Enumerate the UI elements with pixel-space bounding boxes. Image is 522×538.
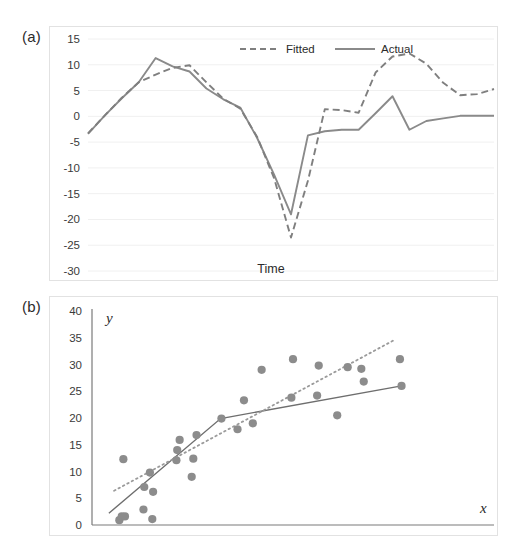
x-axis-title: x: [479, 500, 487, 516]
y-axis-tick-label: 0: [76, 519, 82, 531]
scatter-point: [287, 394, 295, 402]
figure-container: (a) 151050-5-10-15-20-25-30TimeFittedAct…: [0, 0, 522, 538]
scatter-point: [315, 361, 323, 369]
y-axis-tick-label: 25: [69, 385, 82, 397]
y-axis-tick-label: 30: [69, 359, 82, 371]
scatter-point: [249, 419, 257, 427]
y-axis-tick-label: 15: [67, 33, 80, 45]
scatter-point: [313, 391, 321, 399]
y-axis-tick-label: 0: [74, 110, 80, 122]
legend-label-fitted: Fitted: [286, 43, 315, 55]
scatter-point: [148, 515, 156, 523]
y-axis-tick-label: 20: [69, 412, 82, 424]
scatter-point: [396, 355, 404, 363]
series-line-actual: [88, 58, 494, 214]
y-axis-tick-label: -5: [70, 136, 80, 148]
scatter-point: [140, 483, 148, 491]
scatter-point: [149, 488, 157, 496]
scatter-point: [139, 505, 147, 513]
scatter-point: [360, 378, 368, 386]
scatter-chart-panel-b: 4035302520151050yx: [49, 296, 498, 536]
scatter-point: [258, 366, 266, 374]
fit-line-linear: [114, 339, 395, 490]
y-axis-tick-label: -20: [63, 213, 80, 225]
y-axis-tick-label: 15: [69, 439, 82, 451]
scatter-point: [397, 382, 405, 390]
scatter-point: [119, 455, 127, 463]
scatter-point: [188, 473, 196, 481]
x-axis-title: Time: [257, 262, 284, 276]
line-chart-panel-a: 151050-5-10-15-20-25-30TimeFittedActual: [49, 26, 498, 281]
scatter-point: [146, 468, 154, 476]
y-axis-tick-label: 5: [74, 85, 80, 97]
scatter-point: [357, 365, 365, 373]
legend-label-actual: Actual: [381, 43, 413, 55]
scatter-point: [217, 414, 225, 422]
scatter-point: [289, 355, 297, 363]
y-axis-tick-label: 10: [69, 466, 82, 478]
panel-a-label: (a): [22, 28, 41, 45]
scatter-point: [176, 436, 184, 444]
y-axis-tick-label: 5: [76, 492, 82, 504]
scatter-point: [189, 455, 197, 463]
y-axis-tick-label: -15: [63, 188, 80, 200]
line-chart-svg: 151050-5-10-15-20-25-30TimeFittedActual: [50, 27, 497, 280]
y-axis-tick-label: 40: [69, 305, 82, 317]
y-axis-title: y: [104, 310, 113, 326]
y-axis-tick-label: 10: [67, 59, 80, 71]
scatter-point: [233, 425, 241, 433]
scatter-point: [333, 411, 341, 419]
y-axis-tick-label: -30: [63, 265, 80, 277]
scatter-point: [192, 431, 200, 439]
scatter-point: [173, 446, 181, 454]
panel-b-label: (b): [22, 298, 41, 315]
y-axis-tick-label: 35: [69, 332, 82, 344]
scatter-point: [344, 363, 352, 371]
y-axis-tick-label: -25: [63, 239, 80, 251]
scatter-point: [240, 396, 248, 404]
scatter-chart-svg: 4035302520151050yx: [50, 297, 497, 535]
y-axis-tick-label: -10: [63, 162, 80, 174]
scatter-point: [121, 512, 129, 520]
scatter-point: [172, 456, 180, 464]
